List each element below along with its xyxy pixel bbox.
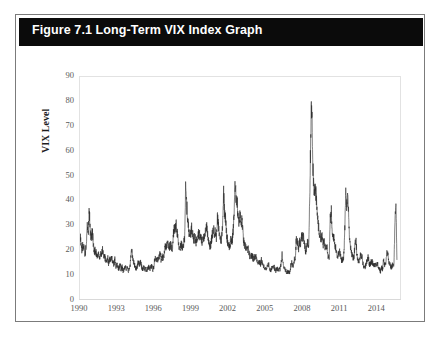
vix-series-line — [80, 101, 397, 274]
figure-title-bar: Figure 7.1 Long-Term VIX Index Graph — [19, 18, 423, 46]
y-tick-label: 50 — [52, 171, 74, 180]
x-tick-label: 1990 — [62, 304, 96, 313]
x-tick-label: 2005 — [248, 304, 282, 313]
x-tick-label: 1996 — [136, 304, 170, 313]
x-tick-label: 2011 — [322, 304, 356, 313]
chart-region: VIX Level 9080706050403020100 1990199319… — [19, 49, 423, 318]
y-tick-label: 20 — [52, 245, 74, 254]
y-axis-title: VIX Level — [40, 139, 51, 153]
y-tick-label: 80 — [52, 96, 74, 105]
vix-line-chart — [80, 77, 400, 299]
y-tick-label: 60 — [52, 146, 74, 155]
y-tick-label: 70 — [52, 121, 74, 130]
y-tick-label: 40 — [52, 195, 74, 204]
x-tick-label: 2008 — [285, 304, 319, 313]
x-tick-label: 1999 — [173, 304, 207, 313]
plot-area — [79, 76, 401, 300]
x-tick-label: 1993 — [99, 304, 133, 313]
y-tick-label: 10 — [52, 270, 74, 279]
x-tick-label: 2014 — [359, 304, 393, 313]
figure-title: Figure 7.1 Long-Term VIX Index Graph — [32, 23, 263, 37]
figure-container: Figure 7.1 Long-Term VIX Index Graph VIX… — [15, 14, 425, 322]
y-tick-label: 90 — [52, 71, 74, 80]
x-axis-line — [79, 299, 401, 300]
y-tick-label: 30 — [52, 220, 74, 229]
x-tick-label: 2002 — [211, 304, 245, 313]
